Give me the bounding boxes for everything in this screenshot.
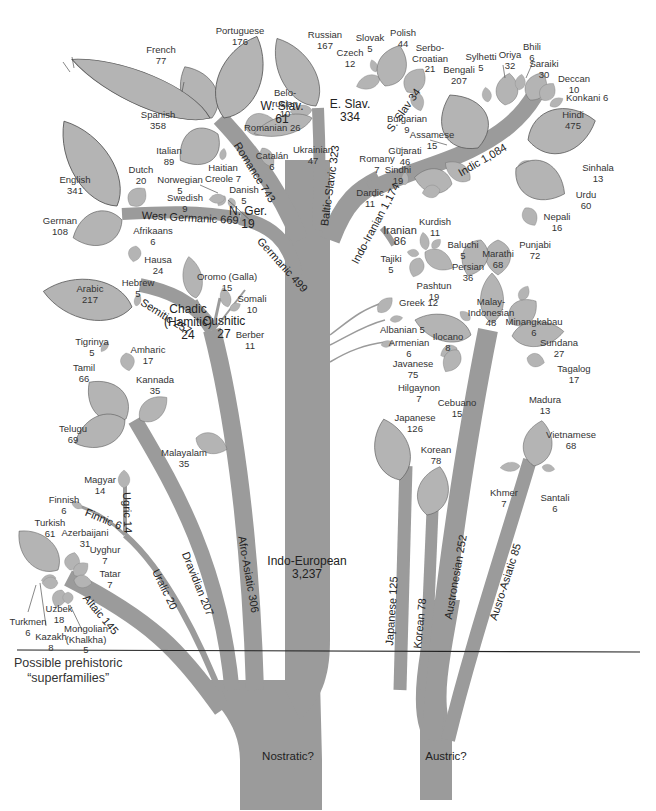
lang-cebuano: Cebuano15 xyxy=(438,398,477,419)
lang-english: English341 xyxy=(59,175,90,196)
lang-javanese: Javanese75 xyxy=(393,359,434,380)
lang-magyar: Magyar14 xyxy=(84,475,116,496)
lang-portuguese: Portuguese176 xyxy=(216,26,265,47)
lang-uyghur: Uyghur7 xyxy=(90,545,121,566)
lang-saraiki: Saraiki30 xyxy=(529,59,558,80)
lang-arabic: Arabic217 xyxy=(77,284,104,305)
lang-sinhala: Sinhala13 xyxy=(582,163,614,184)
lang-kazakh: Kazakh8 xyxy=(35,632,67,653)
lang-persian: Persian36 xyxy=(452,262,484,283)
lang-punjabi: Punjabi72 xyxy=(519,240,551,261)
lang-uzbek: Uzbek18 xyxy=(46,604,73,625)
lang-sundana: Sundana27 xyxy=(540,338,578,359)
lang-berber: Berber11 xyxy=(236,330,265,351)
lang-ukrainian: Ukrainian47 xyxy=(293,145,333,166)
lang-somali: Somali10 xyxy=(237,294,266,315)
lang-kurdish: Kurdish11 xyxy=(419,217,451,238)
lang-minangkabau: Minangkabau6 xyxy=(505,317,562,338)
lang-khmer: Khmer7 xyxy=(490,488,518,509)
lang-hausa: Hausa24 xyxy=(144,255,171,276)
lang-finnish: Finnish6 xyxy=(49,495,80,516)
lang-malayalam: Malayalam35 xyxy=(161,448,207,469)
branch-label-indo-european: Indo-European3,237 xyxy=(267,555,346,581)
root-label-nostratic: Nostratic? xyxy=(262,750,314,762)
lang-greek: Greek 12 xyxy=(399,298,438,309)
lang-nepali: Nepali16 xyxy=(544,212,571,233)
lang-vietnamese: Vietnamese68 xyxy=(546,430,596,451)
lang-german: German108 xyxy=(43,216,77,237)
lang-french: French77 xyxy=(146,45,176,66)
lang-korean: Korean78 xyxy=(421,445,452,466)
lang-urdu: Urdu60 xyxy=(576,190,597,211)
lang-tatar: Tatar7 xyxy=(99,569,120,590)
lang-swedish: Swedish9 xyxy=(167,193,203,214)
lang-kannada: Kannada35 xyxy=(136,375,174,396)
lang-baluchi: Baluchi5 xyxy=(447,240,478,261)
lang-czech: Czech12 xyxy=(337,48,364,69)
lang-tigrinya: Tigrinya5 xyxy=(75,337,108,358)
lang-catalan: Catalán6 xyxy=(256,151,289,172)
lang-haitian-creole: HaitianCreole 7 xyxy=(205,163,241,184)
lang-spanish: Spanish358 xyxy=(141,110,175,131)
branch-label-iranian: Iranian86 xyxy=(383,225,417,246)
lang-dardic: Dardic11 xyxy=(356,188,383,209)
root-label-austric: Austric? xyxy=(425,750,467,762)
lang-ilocano: Ilocano8 xyxy=(433,332,464,353)
lang-afrikaans: Afrikaans6 xyxy=(133,226,173,247)
lang-romanian: Romanian 26 xyxy=(244,123,301,134)
lang-tagalog: Tagalog17 xyxy=(557,364,590,385)
lang-japanese: Japanese126 xyxy=(394,413,435,434)
lang-amharic: Amharic17 xyxy=(131,345,166,366)
lang-tajiki: Tajiki5 xyxy=(380,254,401,275)
lang-sylhetti: Sylhetti5 xyxy=(465,52,496,73)
lang-hebrew: Hebrew5 xyxy=(122,278,155,299)
lang-oromo: Oromo (Galla)15 xyxy=(197,272,257,293)
lang-tamil: Tamil66 xyxy=(73,363,95,384)
lang-belorusian: Belo-rusian10 xyxy=(272,88,298,120)
branch-label-n-ger: N. Ger.19 xyxy=(229,205,267,231)
language-family-tree-diagram: Romance 743 Baltic-Slavic 323 Indo-Irani… xyxy=(0,0,656,811)
lang-mongolian: Mongolian(Khalkha)5 xyxy=(64,624,108,656)
lang-madura: Madura13 xyxy=(529,395,561,416)
lang-hilgaynon: Hilgaynon7 xyxy=(398,383,440,404)
lang-danish: Danish5 xyxy=(229,185,259,206)
lang-sindhi: Sindhi19 xyxy=(385,165,411,186)
lang-santali: Santali6 xyxy=(540,493,569,514)
lang-albanian: Albanian 5 xyxy=(380,325,425,336)
branch-label-ugric: Ugric 14 xyxy=(121,492,134,533)
lang-telugu: Telugu69 xyxy=(59,424,87,445)
lang-dutch: Dutch20 xyxy=(129,165,154,186)
lang-hindi: Hindi475 xyxy=(562,110,584,131)
lang-armenian: Armenian6 xyxy=(389,338,430,359)
lang-oriya: Oriya32 xyxy=(499,50,522,71)
lang-marathi: Marathi68 xyxy=(482,249,514,270)
branch-label-e-slav: E. Slav.334 xyxy=(330,98,370,124)
lang-konkani: Konkani 6 xyxy=(566,93,608,104)
superfamilies-note: Possible prehistoric“superfamilies” xyxy=(14,656,122,686)
lang-italian: Italian89 xyxy=(156,146,181,167)
